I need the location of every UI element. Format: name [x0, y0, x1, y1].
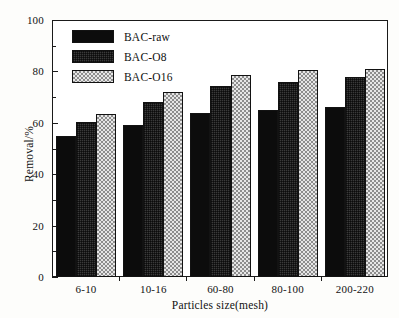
y-tick-label: 20 — [4, 220, 44, 232]
y-tick-label: 100 — [4, 14, 44, 26]
bar — [56, 136, 76, 277]
legend-item-bac-raw: BAC-raw — [72, 28, 173, 45]
bar — [190, 113, 210, 277]
legend-swatch — [72, 30, 114, 43]
bar — [231, 75, 251, 277]
y-tick-label: 80 — [4, 65, 44, 77]
legend-label: BAC-O16 — [124, 71, 173, 83]
legend-item-bac-o16: BAC-O16 — [72, 68, 173, 85]
bar — [298, 70, 318, 277]
bar — [96, 114, 116, 277]
x-tick-label: 200-220 — [315, 283, 395, 295]
y-tick-label: 60 — [4, 117, 44, 129]
bar — [143, 102, 163, 277]
bar — [163, 92, 183, 277]
y-tick-label: 0 — [4, 271, 44, 283]
bar — [278, 82, 298, 277]
y-tick-major — [52, 277, 58, 278]
bar — [76, 122, 96, 277]
bar — [345, 77, 365, 277]
bar — [365, 69, 385, 277]
x-tick-minor — [321, 277, 322, 281]
y-axis-title: Removal/% — [23, 99, 35, 209]
bar-chart: Removal/% Particles size(mesh) 020406080… — [0, 0, 399, 318]
x-tick-minor — [119, 277, 120, 281]
bar — [123, 125, 143, 277]
x-tick-minor — [254, 277, 255, 281]
legend-label: BAC-raw — [124, 31, 170, 43]
legend-swatch — [72, 50, 114, 63]
x-axis-title: Particles size(mesh) — [52, 299, 388, 311]
legend-swatch — [72, 70, 114, 83]
bar — [325, 107, 345, 277]
bar — [258, 110, 278, 277]
x-tick-minor — [186, 277, 187, 281]
y-tick-label: 40 — [4, 168, 44, 180]
legend-label: BAC-O8 — [124, 51, 167, 63]
legend-item-bac-o8: BAC-O8 — [72, 48, 173, 65]
bar — [210, 86, 230, 277]
legend: BAC-rawBAC-O8BAC-O16 — [72, 28, 173, 88]
